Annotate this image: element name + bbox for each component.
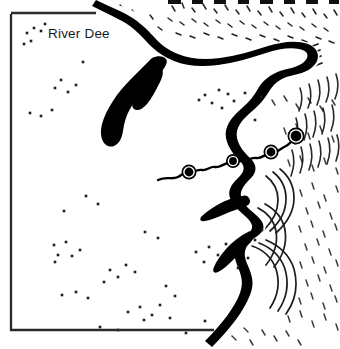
river-site-marker bbox=[226, 154, 240, 168]
river-site-marker bbox=[288, 128, 305, 145]
settlement-dot bbox=[26, 32, 29, 35]
settlement-dot bbox=[244, 92, 247, 95]
settlement-dot bbox=[159, 304, 162, 307]
marker-core bbox=[291, 131, 302, 142]
settlement-dot bbox=[260, 96, 263, 99]
settlement-dot bbox=[44, 23, 47, 26]
settlement-dot bbox=[204, 94, 207, 97]
settlement-dot bbox=[195, 251, 198, 254]
settlement-dot bbox=[63, 210, 66, 213]
settlement-dot bbox=[254, 239, 257, 242]
settlement-dot bbox=[185, 332, 188, 335]
settlement-dot bbox=[99, 326, 102, 329]
settlement-dot bbox=[109, 269, 112, 272]
settlement-dot bbox=[30, 40, 33, 43]
settlement-dot bbox=[139, 306, 142, 309]
settlement-dot bbox=[79, 249, 82, 252]
settlement-dot bbox=[237, 267, 240, 270]
settlement-dot bbox=[54, 87, 57, 90]
settlement-dot bbox=[247, 257, 250, 260]
settlement-dot bbox=[143, 319, 146, 322]
settlement-dot bbox=[71, 255, 74, 258]
settlement-dot bbox=[97, 203, 100, 206]
settlement-dot bbox=[29, 112, 32, 115]
settlement-dot bbox=[67, 91, 70, 94]
settlement-dot bbox=[165, 285, 168, 288]
settlement-dot bbox=[261, 229, 264, 232]
settlement-dot bbox=[225, 243, 228, 246]
settlement-dot bbox=[144, 231, 147, 234]
settlement-dot bbox=[40, 115, 43, 118]
settlement-dot bbox=[211, 102, 214, 105]
settlement-dot bbox=[134, 271, 137, 274]
settlement-dot bbox=[87, 297, 90, 300]
settlement-dot bbox=[217, 254, 220, 257]
settlement-dot bbox=[221, 107, 224, 110]
settlement-dot bbox=[127, 311, 130, 314]
settlement-dot bbox=[75, 291, 78, 294]
river-site-marker bbox=[182, 165, 197, 180]
settlement-dot bbox=[125, 264, 128, 267]
settlement-dot bbox=[227, 93, 230, 96]
settlement-dot bbox=[82, 61, 85, 64]
settlement-dot bbox=[103, 281, 106, 284]
settlement-dot bbox=[254, 119, 257, 122]
settlement-dot bbox=[218, 89, 221, 92]
marker-core bbox=[267, 148, 276, 157]
settlement-dot bbox=[40, 30, 43, 33]
settlement-dot bbox=[33, 27, 36, 30]
river-site-marker bbox=[264, 145, 279, 160]
settlement-dot bbox=[198, 99, 201, 102]
settlement-dot bbox=[203, 261, 206, 264]
settlement-dot bbox=[233, 100, 236, 103]
settlement-dot bbox=[60, 79, 63, 82]
settlement-dot bbox=[51, 109, 54, 112]
settlement-dot bbox=[204, 320, 207, 323]
map-canvas: River Dee bbox=[0, 0, 340, 349]
marker-core bbox=[229, 157, 237, 165]
settlement-dot bbox=[169, 317, 172, 320]
marker-core bbox=[185, 168, 194, 177]
settlement-dot bbox=[157, 237, 160, 240]
settlement-dot bbox=[75, 84, 78, 87]
settlement-dot bbox=[85, 195, 88, 198]
settlement-dot bbox=[208, 246, 211, 249]
settlement-dot bbox=[65, 241, 68, 244]
settlement-dot bbox=[61, 294, 64, 297]
settlement-dot bbox=[53, 244, 56, 247]
settlement-dot bbox=[151, 314, 154, 317]
settlement-dot bbox=[57, 254, 60, 257]
settlement-dot bbox=[117, 276, 120, 279]
settlement-dot bbox=[174, 295, 177, 298]
settlement-dot bbox=[23, 43, 26, 46]
settlement-dot bbox=[54, 261, 57, 264]
label-river-dee: River Dee bbox=[48, 26, 110, 41]
map-svg: River Dee bbox=[0, 0, 340, 349]
